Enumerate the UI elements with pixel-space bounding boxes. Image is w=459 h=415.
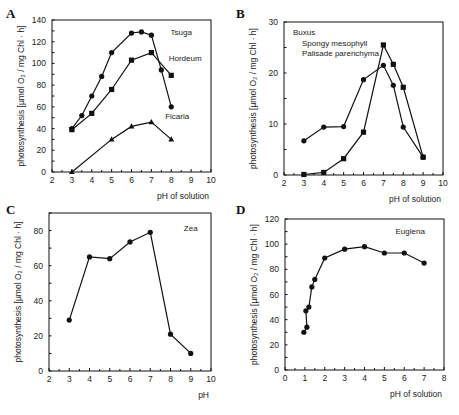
x-tick-label: 7: [149, 175, 154, 185]
y-axis-label: photosynthesis [µmol O₂ / mg Chl · h]: [16, 26, 26, 167]
y-tick-label: 80: [34, 226, 44, 236]
circle-marker: [148, 230, 153, 235]
circle-marker: [401, 124, 406, 129]
x-tick-label: 0: [283, 373, 288, 383]
square-marker: [109, 87, 114, 92]
x-tick-label: 2: [47, 374, 52, 384]
x-tick-label: 6: [128, 374, 133, 384]
x-tick-label: 5: [107, 374, 112, 384]
legend: BuxusSpongy mesophyllPalisade parenchyma: [293, 28, 379, 58]
y-tick-label: 20: [34, 331, 44, 341]
figure-svg: A2345678910020406080100120140pH of solut…: [0, 0, 459, 415]
circle-marker: [306, 304, 311, 309]
panel-letter: D: [236, 202, 245, 217]
y-tick-label: 30: [269, 17, 279, 27]
series-line: [72, 32, 171, 129]
y-tick-label: 100: [265, 239, 279, 249]
y-tick-label: 20: [37, 145, 47, 155]
x-tick-label: 6: [402, 373, 407, 383]
square-marker: [321, 170, 326, 175]
circle-marker: [361, 77, 366, 82]
circle-marker: [381, 63, 386, 68]
square-marker: [341, 156, 346, 161]
circle-marker: [129, 30, 134, 35]
circle-marker: [382, 250, 387, 255]
circle-marker: [127, 239, 132, 244]
triangle-marker: [109, 136, 115, 141]
square-marker: [421, 155, 426, 160]
x-tick-label: 1: [303, 373, 308, 383]
x-tick-label: 2: [282, 178, 287, 188]
y-tick-label: 20: [270, 340, 280, 350]
panel-a-chart: A2345678910020406080100120140pH of solut…: [6, 6, 216, 201]
x-tick-label: 9: [421, 178, 426, 188]
x-tick-label: 10: [438, 178, 448, 188]
y-tick-label: 120: [265, 214, 279, 224]
circle-marker: [107, 256, 112, 261]
square-marker: [89, 111, 94, 116]
x-tick-label: 10: [206, 374, 216, 384]
circle-marker: [342, 247, 347, 252]
circle-marker: [301, 330, 306, 335]
x-tick-label: 4: [321, 178, 326, 188]
panel-letter: A: [6, 6, 16, 21]
square-marker: [69, 127, 74, 132]
circle-marker: [309, 284, 314, 289]
legend-entry: Palisade parenchyma: [302, 49, 379, 58]
y-axis-label: photosynthesis [µmol O₂ / mg Chl · h]: [13, 222, 23, 363]
series-euglena: Euglena: [301, 227, 426, 335]
x-tick-label: 5: [109, 175, 114, 185]
y-tick-label: 120: [32, 37, 46, 47]
square-marker: [381, 42, 386, 47]
x-tick-label: 3: [67, 374, 72, 384]
x-axis-label: pH of solution: [157, 191, 209, 201]
x-tick-label: 6: [129, 175, 134, 185]
plot-frame: [285, 219, 444, 370]
y-tick-label: 0: [38, 366, 43, 376]
circle-marker: [304, 325, 309, 330]
x-axis-label: pH: [198, 390, 209, 400]
y-tick-label: 60: [37, 102, 47, 112]
x-tick-label: 8: [401, 178, 406, 188]
circle-marker: [109, 50, 114, 55]
y-tick-label: 40: [34, 296, 44, 306]
panel-letter: C: [6, 202, 15, 217]
series-ficaria: Ficaria: [69, 112, 190, 174]
circle-marker: [139, 29, 144, 34]
x-tick-label: 3: [342, 373, 347, 383]
series-line: [72, 122, 171, 172]
circle-marker: [312, 277, 317, 282]
x-tick-label: 4: [89, 175, 94, 185]
circle-marker: [87, 254, 92, 259]
circle-marker: [159, 67, 164, 72]
series-line: [304, 247, 424, 333]
x-tick-label: 4: [87, 374, 92, 384]
series-label: Tsuga: [171, 28, 193, 37]
y-tick-label: 60: [34, 261, 44, 271]
circle-marker: [99, 74, 104, 79]
y-tick-label: 60: [270, 290, 280, 300]
legend-entry: Spongy mesophyll: [302, 39, 368, 48]
x-tick-label: 7: [148, 374, 153, 384]
circle-marker: [341, 124, 346, 129]
circle-marker: [301, 138, 306, 143]
x-tick-label: 5: [341, 178, 346, 188]
y-axis-label: photosynthesis [µmol O₂ / mg Chl · h]: [249, 224, 259, 365]
x-tick-label: 6: [361, 178, 366, 188]
figure: A2345678910020406080100120140pH of solut…: [0, 0, 459, 415]
series-zea: Zea: [67, 224, 199, 356]
series-label: Ficaria: [165, 112, 190, 121]
y-tick-label: 100: [32, 58, 46, 68]
circle-marker: [169, 104, 174, 109]
circle-marker: [149, 33, 154, 38]
plot-frame: [52, 20, 211, 172]
y-tick-label: 0: [41, 167, 46, 177]
circle-marker: [89, 93, 94, 98]
x-tick-label: 8: [168, 374, 173, 384]
y-tick-label: 80: [270, 264, 280, 274]
x-tick-label: 7: [381, 178, 386, 188]
panel-b-chart: B23456789100102030pH of solutionphotosyn…: [236, 6, 448, 204]
y-axis-label: photosynthesis [µmol O₂ / mg Chl · h]: [248, 28, 258, 169]
panel-d-chart: D012345678020406080100120pH of solutionp…: [236, 202, 447, 399]
square-marker: [301, 172, 306, 177]
